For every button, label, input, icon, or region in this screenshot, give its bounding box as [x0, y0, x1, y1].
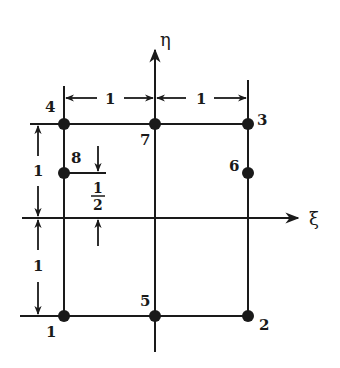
node-4 — [58, 118, 70, 130]
node-6 — [242, 167, 254, 179]
dim-label-top-left: 1 — [105, 90, 115, 108]
eta-axis-label: η — [160, 29, 171, 50]
node-2 — [242, 310, 254, 322]
node-label-3: 3 — [257, 111, 267, 129]
node-label-7: 7 — [140, 131, 150, 149]
half-numerator: 1 — [93, 180, 103, 196]
xi-axis-label: ξ — [309, 208, 319, 229]
node-3 — [242, 118, 254, 130]
node-7 — [149, 118, 161, 130]
dim-label-left-upper: 1 — [33, 162, 43, 180]
dim-label-left-lower: 1 — [33, 257, 43, 275]
node-8 — [58, 167, 70, 179]
dim-label-top-right: 1 — [196, 90, 206, 108]
node-1 — [58, 310, 70, 322]
node-label-6: 6 — [229, 157, 239, 175]
element-diagram: 1 2 3 4 5 6 7 8 η ξ 1 1 1 1 1 2 — [0, 0, 340, 368]
node-label-2: 2 — [259, 316, 269, 334]
node-label-1: 1 — [46, 323, 56, 341]
node-5 — [149, 310, 161, 322]
node-label-5: 5 — [140, 292, 150, 310]
node-label-8: 8 — [71, 149, 81, 167]
node-label-4: 4 — [45, 98, 55, 116]
half-denominator: 2 — [93, 197, 103, 213]
